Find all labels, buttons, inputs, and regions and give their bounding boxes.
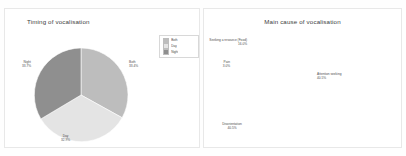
legend-swatch-night: [163, 49, 169, 55]
pie-label-both-value: 33.4%: [129, 65, 138, 69]
chart-panel-cause: Main cause of vocalisation Seeking a res…: [203, 8, 402, 148]
legend-label-day: Day: [171, 44, 177, 49]
pie-label-both: Both 33.4%: [129, 61, 138, 69]
pie-label-attention-seeking-value: 40.5%: [317, 77, 341, 81]
pie-label-night-value: 33.7%: [9, 65, 31, 69]
pie-label-pain: Pain 3.0%: [203, 61, 230, 69]
legend-timing: Both Day Night: [159, 35, 199, 58]
pie-label-disorientation-value: 40.5%: [210, 127, 254, 131]
page-title-cause: Main cause of vocalisation: [204, 18, 401, 25]
pie-label-day: Day 32.9%: [61, 135, 70, 143]
page-title-timing: Timing of vocalisation: [5, 18, 199, 25]
legend-label-night: Night: [171, 50, 178, 55]
pie-label-pain-value: 3.0%: [203, 65, 230, 69]
chart-panel-timing: Timing of vocalisation Both 33.4% Day 32…: [4, 8, 200, 148]
pie-label-night: Night 33.7%: [9, 61, 31, 69]
legend-item-night[interactable]: Night: [163, 50, 195, 55]
legend-label-both: Both: [171, 38, 177, 43]
pie-label-seeking-resource-value: 16.0%: [203, 43, 247, 47]
pie-label-seeking-resource: Seeking a resource (Food) 16.0%: [203, 39, 247, 47]
pie-svg-timing: [32, 46, 130, 144]
pie-label-day-value: 32.9%: [61, 139, 70, 143]
pie-chart-timing: [32, 46, 130, 144]
figure-canvas: Timing of vocalisation Both 33.4% Day 32…: [0, 0, 406, 156]
pie-label-disorientation: Disorientation 40.5%: [210, 123, 254, 131]
pie-label-attention-seeking: Attention seeking 40.5%: [317, 73, 341, 81]
